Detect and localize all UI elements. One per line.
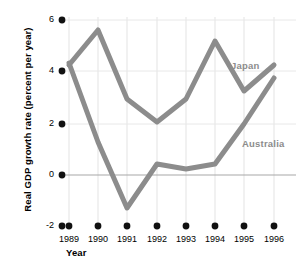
x-axis-tick-markers — [66, 223, 278, 230]
x-axis-title: Year — [66, 247, 86, 258]
y-tick-label-6: 6 — [32, 14, 54, 24]
y-tick-label-2: 2 — [32, 118, 54, 128]
y-tick-label-4: 4 — [32, 65, 54, 75]
horizontal-gridlines — [62, 20, 296, 124]
x-tick-label-1991: 1991 — [110, 234, 144, 244]
series-label-japan: Japan — [231, 60, 259, 71]
y-axis-title: Real GDP growth rate (percent per year) — [22, 20, 33, 220]
y-tick-label-minus-2: -2 — [32, 220, 54, 230]
series-label-australia: Australia — [242, 138, 284, 149]
gdp-growth-line-chart: 6 4 2 0 -2 1989 1990 1991 1992 1993 1994… — [0, 0, 301, 269]
x-tick-label-1996: 1996 — [257, 234, 291, 244]
y-axis-tick-markers — [59, 17, 66, 230]
x-tick-label-1995: 1995 — [227, 234, 261, 244]
series-line-japan — [69, 30, 274, 122]
y-tick-label-0: 0 — [32, 169, 54, 179]
